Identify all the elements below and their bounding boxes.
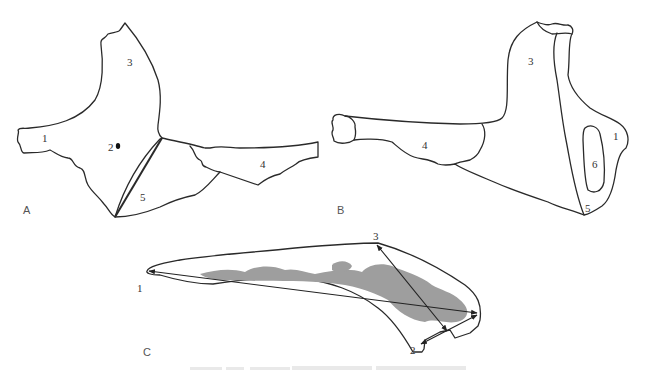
- panel-b: 1 3 4 5 6 B: [332, 22, 628, 216]
- panel-a-letter: A: [23, 204, 31, 216]
- panel-a-label-2: 2: [108, 141, 114, 153]
- panel-a-region-4-border: [190, 146, 220, 172]
- panel-c-letter: C: [143, 346, 151, 358]
- panel-c-label-1: 1: [137, 282, 143, 294]
- panel-b-region-4-border: [455, 124, 485, 164]
- panel-c-label-3: 3: [373, 230, 379, 242]
- panel-a-label-4: 4: [260, 158, 266, 170]
- panel-b-knob: [332, 114, 356, 143]
- panel-a-label-1: 1: [42, 132, 48, 144]
- panel-b-letter: B: [337, 204, 344, 216]
- panel-a-label-5: 5: [140, 191, 146, 203]
- panel-a: 1 2 3 4 5 A: [17, 23, 318, 217]
- panel-b-outline: [345, 22, 628, 215]
- panel-a-label-3: 3: [127, 56, 133, 68]
- panel-a-foramen-dot: [116, 143, 120, 149]
- panel-b-label-1: 1: [613, 130, 619, 142]
- panel-c-marrow-cavity: [200, 264, 467, 322]
- panel-b-label-6: 6: [592, 158, 598, 170]
- panel-b-label-5: 5: [585, 202, 591, 214]
- panel-b-label-4: 4: [422, 139, 428, 151]
- panel-b-label-3: 3: [528, 55, 534, 67]
- scapula-figure: 1 2 3 4 5 A 1 3 4 5 6 B 1: [0, 0, 647, 374]
- panel-a-division-line: [115, 138, 162, 217]
- panel-c-label-2: 2: [410, 344, 416, 356]
- panel-a-outline: [17, 23, 162, 217]
- panel-c: 1 2 3 C: [137, 230, 480, 358]
- figure-caption: [190, 366, 466, 370]
- panel-a-region-5-outline: [115, 138, 318, 217]
